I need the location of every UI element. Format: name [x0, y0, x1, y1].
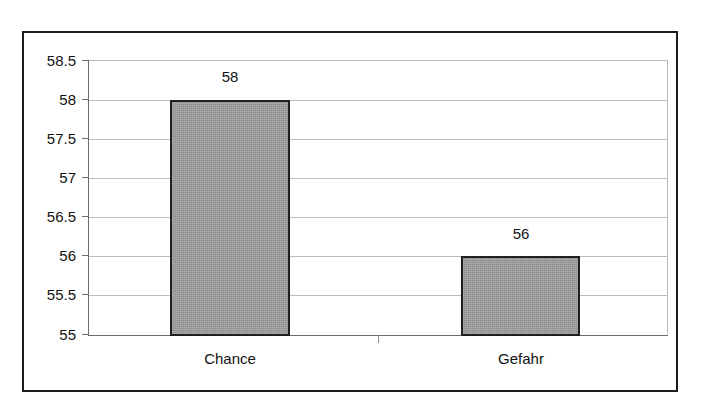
y-axis-tick-label: 57.5: [14, 131, 76, 146]
data-label-gefahr: 56: [481, 226, 561, 241]
y-axis-tick-label: 58: [14, 92, 76, 107]
x-axis-category-label-gefahr: Gefahr: [471, 351, 571, 366]
y-axis-tick-label: 56: [14, 248, 76, 263]
bar-gefahr[interactable]: [461, 256, 580, 336]
y-axis-tick-label: 57: [14, 170, 76, 185]
y-axis-tick-label: 58.5: [14, 53, 76, 68]
category-separator-tick: [378, 335, 379, 343]
data-label-chance: 58: [190, 69, 270, 84]
y-axis-tick-label: 56.5: [14, 209, 76, 224]
y-axis-line: [88, 60, 89, 335]
plot-area: [88, 60, 668, 334]
x-axis-category-label-chance: Chance: [180, 351, 280, 366]
bar-chance[interactable]: [170, 100, 290, 336]
bar-chart-figure: 58.5 58 57.5 57 56.5 56 55.5 55 58 56 Ch…: [0, 0, 701, 410]
y-axis-tick-label: 55: [14, 327, 76, 342]
y-axis-tick-labels: 58.5 58 57.5 57 56.5 56 55.5 55: [14, 0, 76, 410]
y-axis-tick-label: 55.5: [14, 287, 76, 302]
